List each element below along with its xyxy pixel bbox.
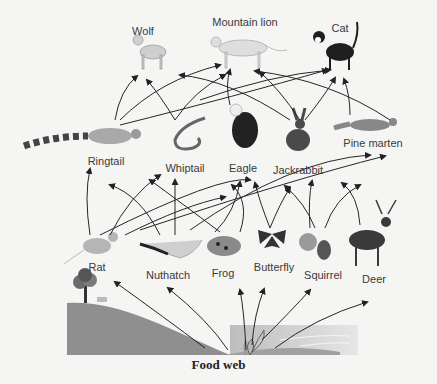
label-whiptail: Whiptail [165,163,204,174]
label-pine-marten: Pine marten [343,138,402,149]
label-nuthatch: Nuthatch [146,270,190,281]
label-butterfly: Butterfly [254,262,294,273]
food-web-diagram: Wolf Mountain lion Cat Ringtail Whiptail… [0,0,437,384]
label-deer: Deer [362,274,386,285]
nuthatch-icon [140,240,202,258]
food-web-illustration [0,0,437,384]
squirrel-icon [299,233,331,260]
label-rat: Rat [88,262,105,273]
rat-icon [64,232,118,264]
label-mountain-lion: Mountain lion [212,17,277,28]
label-ringtail: Ringtail [88,156,125,167]
eagle-icon [230,104,258,148]
frog-icon [207,236,241,256]
label-eagle: Eagle [229,163,257,174]
label-wolf: Wolf [132,26,154,37]
whiptail-icon [175,118,205,149]
deer-icon [349,200,396,266]
label-cat: Cat [331,23,348,34]
label-jackrabbit: Jackrabbit [273,165,323,176]
tree-icon [73,268,107,303]
pine-marten-icon [334,118,397,131]
label-frog: Frog [212,268,235,279]
landscape [67,268,358,355]
wolf-icon [133,35,166,69]
label-squirrel: Squirrel [304,270,342,281]
diagram-caption: Food web [192,357,246,373]
butterfly-icon [258,230,286,248]
jackrabbit-icon [286,108,310,151]
ringtail-icon [24,128,141,146]
mountain-lion-icon [211,37,287,68]
